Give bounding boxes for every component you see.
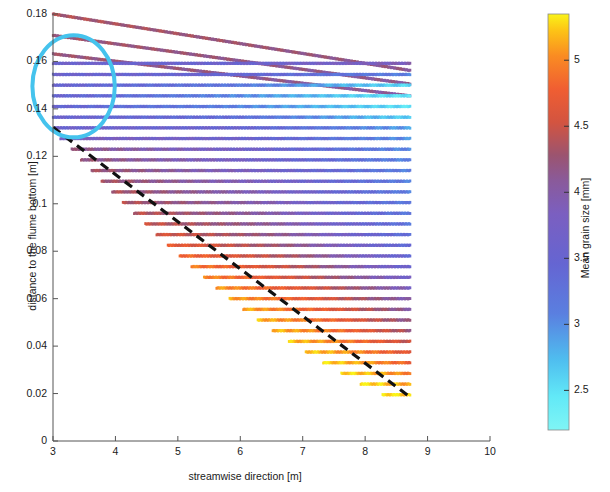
y-tick-label: 0.04: [3, 339, 47, 351]
scatter-point: [409, 233, 411, 236]
scatter-point: [409, 244, 411, 247]
y-tick-label: 0.02: [3, 387, 47, 399]
x-tick-label: 7: [283, 445, 323, 457]
scatter-row: [203, 276, 411, 279]
colorbar-tick-label: 3: [574, 317, 608, 329]
scatter-row: [156, 233, 412, 237]
scatter-row: [101, 179, 412, 183]
scatter-point: [409, 148, 411, 151]
scatter-row: [179, 254, 412, 258]
y-tick-label: 0: [3, 434, 47, 446]
scatter-row: [52, 62, 411, 66]
colorbar-tick-label: 4.5: [574, 119, 608, 131]
scatter-row: [242, 308, 411, 312]
bed-slope-dashed-line: [53, 127, 410, 397]
scatter-point: [409, 73, 411, 76]
y-tick-label: 0.18: [3, 7, 47, 19]
scatter-point: [409, 372, 411, 375]
colorbar-tick-label: 4: [574, 185, 608, 197]
colorbar-tick-label: 3.5: [574, 251, 608, 263]
scatter-row: [229, 297, 412, 300]
colorbar-gradient: [548, 14, 569, 430]
chart-svg: [0, 0, 610, 492]
scatter-point: [409, 329, 411, 332]
scatter-point: [409, 394, 411, 397]
scatter-row: [167, 244, 412, 248]
scatter-point: [409, 265, 411, 268]
x-tick-label: 8: [345, 445, 385, 457]
x-tick-label: 5: [158, 445, 198, 457]
scatter-point: [409, 69, 411, 72]
scatter-row: [71, 147, 412, 151]
chart-figure: streamwise direction [m] distance to the…: [0, 0, 610, 492]
x-tick-label: 10: [470, 445, 510, 457]
scatter-point: [409, 127, 411, 130]
scatter-point: [409, 286, 411, 289]
axis-layer: [53, 14, 490, 441]
scatter-point: [409, 297, 411, 300]
colorbar: [548, 14, 569, 430]
y-tick-label: 0.08: [3, 244, 47, 256]
scatter-row: [144, 222, 411, 226]
scatter-row: [257, 318, 412, 322]
scatter-point: [409, 190, 411, 193]
scatter-row: [215, 286, 411, 290]
scatter-point: [409, 105, 411, 108]
x-tick-label: 4: [95, 445, 135, 457]
colorbar-tick-label: 5: [574, 53, 608, 65]
y-tick-label: 0.12: [3, 149, 47, 161]
scatter-point: [409, 223, 411, 226]
scatter-row: [272, 329, 412, 333]
scatter-point: [409, 95, 411, 98]
scatter-row: [305, 350, 412, 353]
scatter-row: [111, 190, 411, 194]
y-tick-label: 0.06: [3, 292, 47, 304]
scatter-row: [133, 212, 411, 216]
scatter-row: [59, 137, 411, 141]
scatter-row: [122, 201, 411, 205]
scatter-point: [409, 83, 411, 86]
scatter-point: [409, 350, 411, 353]
x-tick-label: 6: [220, 445, 260, 457]
x-axis-label: streamwise direction [m]: [0, 470, 490, 482]
colorbar-label: Mean grain size [mm]: [579, 113, 591, 343]
scatter-row: [360, 382, 412, 385]
scatter-point: [409, 137, 411, 140]
scatter-point: [409, 158, 411, 161]
scatter-point: [409, 212, 411, 215]
scatter-row: [80, 158, 411, 162]
scatter-point: [409, 169, 411, 172]
scatter-row: [190, 265, 411, 268]
scatter-point: [409, 308, 411, 311]
scatter-row: [91, 169, 412, 173]
scatter-point: [409, 319, 411, 322]
scatter-point: [409, 340, 411, 343]
scatter-row: [52, 105, 411, 109]
y-tick-label: 0.16: [3, 54, 47, 66]
scatter-point: [409, 383, 411, 386]
colorbar-tick-label: 2.5: [574, 383, 608, 395]
scatter-point: [409, 255, 411, 258]
x-tick-label: 9: [408, 445, 448, 457]
x-tick-label: 3: [33, 445, 73, 457]
scatter-point: [409, 62, 411, 65]
scatter-row: [52, 94, 411, 98]
scatter-row: [54, 126, 412, 129]
scatter-point: [409, 276, 411, 279]
scatter-point: [409, 180, 411, 183]
scatter-point: [409, 361, 411, 364]
y-axis-label: distance to the flume bottom [m]: [26, 106, 38, 366]
scatter-point: [409, 116, 411, 119]
scatter-row: [52, 73, 411, 77]
scatter-row: [288, 340, 411, 344]
y-tick-label: 0.1: [3, 197, 47, 209]
scatter-data-layer: [52, 12, 411, 396]
scatter-row: [52, 83, 411, 87]
y-tick-label: 0.14: [3, 102, 47, 114]
scatter-point: [409, 201, 411, 204]
